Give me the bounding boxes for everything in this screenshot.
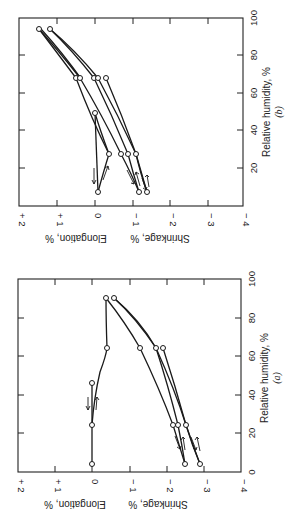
tick-label: − 3 — [202, 479, 213, 492]
tick-label: 40 — [248, 125, 259, 136]
tick-label: − 3 — [206, 213, 217, 226]
tick-label: 100 — [246, 271, 257, 287]
rh-axis-label: Relative humidity, % — [261, 67, 272, 157]
tick-label: − 4 — [239, 479, 250, 492]
panel-caption: (b) — [273, 106, 285, 118]
panel-caption: (a) — [271, 372, 283, 384]
shrinkage-axis-label: Shrinkage, % — [128, 499, 188, 510]
tick-label: 0 — [93, 213, 104, 218]
rh-axis-label: Relative humidity, % — [259, 333, 270, 423]
value-tick-labels-a: + 2 + 1 0 − 1 − 2 − 3 − 4 — [16, 479, 250, 492]
rh-tick-labels-a: 0 20 40 60 80 100 — [246, 271, 257, 475]
tick-label: − 1 — [128, 479, 139, 492]
tick-label: − 2 — [165, 479, 176, 492]
elongation-axis-label: Elongation, % — [44, 499, 106, 510]
curves-b — [39, 29, 147, 192]
tick-label: − 4 — [241, 213, 252, 226]
tick-label: 80 — [246, 313, 257, 324]
figure-canvas: + 2 + 1 0 − 1 − 2 − 3 − 4 Elongation, % … — [0, 0, 292, 514]
curves-a — [92, 298, 200, 464]
rh-tick-labels-b: 20 40 60 80 100 — [248, 10, 259, 173]
tick-label: 20 — [246, 428, 257, 439]
plot-frame — [18, 279, 241, 472]
tick-label: − 2 — [168, 213, 179, 226]
tick-label: + 1 — [55, 213, 66, 226]
direction-arrows-a — [86, 397, 200, 451]
tick-label: 0 — [90, 479, 101, 484]
tick-label: + 2 — [17, 213, 28, 226]
tick-label: 0 — [246, 469, 257, 474]
tick-label: 20 — [248, 163, 259, 174]
panel-b: + 2 + 1 0 − 1 − 2 − 3 − 4 Elongation, % … — [17, 10, 285, 244]
tick-label: 80 — [248, 50, 259, 61]
tick-label: 60 — [248, 88, 259, 99]
tick-label: − 1 — [131, 213, 142, 226]
tick-label: + 2 — [16, 479, 27, 492]
rh-ticks — [18, 318, 241, 433]
tick-label: 60 — [246, 351, 257, 362]
tick-label: 100 — [248, 10, 259, 26]
panel-a: + 2 + 1 0 − 1 − 2 − 3 − 4 Elongation, % … — [16, 271, 283, 510]
shrinkage-axis-label: Shrinkage, % — [130, 233, 190, 244]
rh-ticks — [19, 55, 243, 168]
tick-label: 40 — [246, 390, 257, 401]
elongation-axis-label: Elongation, % — [45, 233, 107, 244]
tick-label: + 1 — [53, 479, 64, 492]
value-tick-labels-b: + 2 + 1 0 − 1 − 2 − 3 − 4 — [17, 213, 252, 226]
